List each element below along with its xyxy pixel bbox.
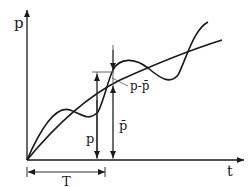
y-axis-label: p: [14, 14, 24, 32]
p-marker-label: p: [86, 131, 94, 146]
difference-label: p-p̄: [130, 79, 150, 93]
mean-trend-curve: [27, 40, 222, 160]
diagram-canvas: p t p-p̄ p p̄ T: [0, 0, 252, 187]
p-bar-marker-label: p̄: [119, 118, 127, 133]
oscillating-curve: [27, 22, 208, 160]
period-label: T: [62, 174, 71, 187]
x-axis-label: t: [227, 163, 233, 179]
